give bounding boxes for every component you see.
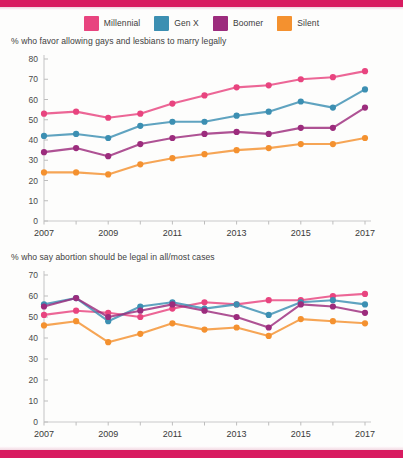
data-point-silent xyxy=(298,316,304,322)
chart-block-marriage: % who favor allowing gays and lesbians t… xyxy=(0,36,403,251)
data-point-millennial xyxy=(41,312,47,318)
y-tick-label: 80 xyxy=(29,54,39,64)
chart-title-abortion: % who say abortion should be legal in al… xyxy=(11,252,215,262)
y-tick-label: 70 xyxy=(29,74,39,84)
y-tick-label: 0 xyxy=(33,216,38,226)
data-point-silent xyxy=(201,327,207,333)
data-point-boomer xyxy=(41,149,47,155)
data-point-gen-x xyxy=(234,113,240,119)
y-tick-label: 60 xyxy=(29,95,39,105)
x-tick-label: 2011 xyxy=(163,429,182,439)
data-point-boomer xyxy=(105,314,111,320)
data-point-gen-x xyxy=(41,133,47,139)
legend-label: Gen X xyxy=(174,18,199,28)
data-point-gen-x xyxy=(137,123,143,129)
data-point-boomer xyxy=(201,131,207,137)
y-tick-label: 20 xyxy=(29,176,39,186)
top-accent-shade xyxy=(0,7,403,10)
data-point-boomer xyxy=(137,308,143,314)
data-point-silent xyxy=(73,169,79,175)
data-point-silent xyxy=(105,339,111,345)
data-point-boomer xyxy=(266,131,272,137)
x-tick-label: 2011 xyxy=(163,228,182,238)
legend-item-silent[interactable]: Silent xyxy=(277,16,319,31)
legend-item-gen-x[interactable]: Gen X xyxy=(154,16,199,31)
x-tick-label: 2007 xyxy=(34,429,54,439)
y-tick-label: 10 xyxy=(29,396,39,406)
data-point-silent xyxy=(137,331,143,337)
data-point-silent xyxy=(41,322,47,328)
plot-area-abortion: 010203040506070200720092011201320152017 xyxy=(0,265,403,450)
data-point-gen-x xyxy=(234,301,240,307)
data-point-silent xyxy=(362,135,368,141)
y-tick-label: 40 xyxy=(29,333,39,343)
x-tick-label: 2009 xyxy=(98,429,118,439)
y-tick-label: 30 xyxy=(29,155,39,165)
data-point-millennial xyxy=(298,76,304,82)
data-point-gen-x xyxy=(298,98,304,104)
y-tick-label: 30 xyxy=(29,354,39,364)
data-point-boomer xyxy=(298,301,304,307)
data-point-silent xyxy=(234,147,240,153)
data-point-boomer xyxy=(73,295,79,301)
x-tick-label: 2017 xyxy=(355,228,375,238)
data-point-silent xyxy=(41,169,47,175)
y-tick-label: 60 xyxy=(29,291,39,301)
y-tick-label: 50 xyxy=(29,312,39,322)
data-point-gen-x xyxy=(169,119,175,125)
data-point-boomer xyxy=(234,129,240,135)
data-point-boomer xyxy=(298,125,304,131)
data-point-millennial xyxy=(169,100,175,106)
data-point-silent xyxy=(298,141,304,147)
color-swatch-icon xyxy=(213,15,228,30)
data-point-silent xyxy=(105,171,111,177)
chart-title-marriage: % who favor allowing gays and lesbians t… xyxy=(11,36,226,46)
legend-item-millennial[interactable]: Millennial xyxy=(84,16,140,31)
chart-svg-marriage: 0102030405060708020072009201120132015201… xyxy=(0,49,403,249)
y-tick-label: 50 xyxy=(29,115,39,125)
data-point-gen-x xyxy=(266,109,272,115)
data-point-silent xyxy=(266,333,272,339)
color-swatch-icon xyxy=(84,15,99,30)
data-point-millennial xyxy=(73,308,79,314)
data-point-millennial xyxy=(73,109,79,115)
data-point-gen-x xyxy=(266,312,272,318)
data-point-gen-x xyxy=(105,135,111,141)
data-point-boomer xyxy=(169,301,175,307)
y-tick-label: 10 xyxy=(29,196,39,206)
data-point-boomer xyxy=(266,324,272,330)
chart-svg-abortion: 010203040506070200720092011201320152017 xyxy=(0,265,403,450)
legend-item-boomer[interactable]: Boomer xyxy=(213,16,263,31)
data-point-millennial xyxy=(41,111,47,117)
data-point-gen-x xyxy=(362,86,368,92)
data-point-gen-x xyxy=(201,119,207,125)
legend-label: Boomer xyxy=(233,18,263,28)
data-point-millennial xyxy=(105,115,111,121)
chart-legend: MillennialGen XBoomerSilent xyxy=(0,12,403,34)
data-point-silent xyxy=(266,145,272,151)
data-point-millennial xyxy=(266,297,272,303)
data-point-millennial xyxy=(266,82,272,88)
data-point-millennial xyxy=(201,299,207,305)
data-point-silent xyxy=(137,161,143,167)
legend-label: Silent xyxy=(297,18,319,28)
data-point-boomer xyxy=(73,145,79,151)
color-swatch-icon xyxy=(277,15,292,30)
infographic-page: MillennialGen XBoomerSilent % who favor … xyxy=(0,0,403,458)
data-point-millennial xyxy=(201,92,207,98)
color-swatch-icon xyxy=(154,15,169,30)
data-point-boomer xyxy=(330,125,336,131)
bottom-accent-bar xyxy=(0,450,403,458)
data-point-boomer xyxy=(234,314,240,320)
x-tick-label: 2015 xyxy=(291,429,311,439)
data-point-millennial xyxy=(137,314,143,320)
data-point-millennial xyxy=(137,111,143,117)
data-point-gen-x xyxy=(330,297,336,303)
data-point-boomer xyxy=(137,141,143,147)
top-accent-bar xyxy=(0,0,403,7)
data-point-silent xyxy=(169,155,175,161)
plot-area-marriage: 0102030405060708020072009201120132015201… xyxy=(0,49,403,249)
data-point-silent xyxy=(330,318,336,324)
data-point-boomer xyxy=(362,310,368,316)
data-point-silent xyxy=(169,320,175,326)
